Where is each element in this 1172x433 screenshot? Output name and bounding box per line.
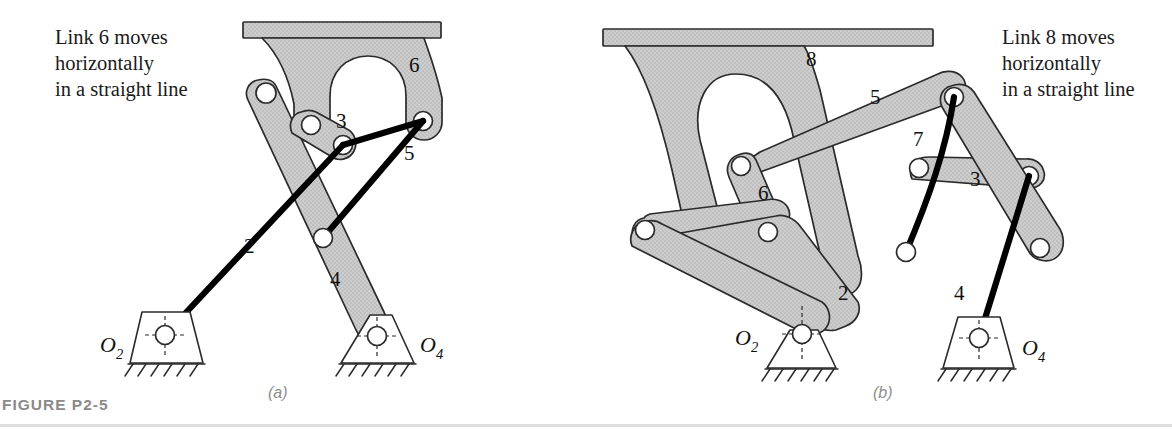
panel-b-link-label-2: 2 [838, 281, 849, 305]
panel-b-note-line-1: Link 8 moves [1002, 26, 1115, 48]
panel-a-o2-label: O [100, 332, 116, 357]
panel-b-o2-pin [793, 325, 812, 344]
panel-b-o4-label: O [1022, 335, 1038, 360]
panel-b-joint-rocker-bottom [1031, 239, 1050, 258]
panel-b-link-label-3: 3 [970, 167, 981, 191]
panel-b-link-label-5: 5 [870, 85, 881, 109]
panel-b-joint-6-5 [732, 157, 751, 176]
panel-b-link-label-8: 8 [806, 47, 817, 71]
figure-p2-5: Link 6 moves horizontally in a straight … [0, 0, 1172, 433]
panel-b-ground-pivot-o4: O 4 [938, 317, 1045, 381]
panel-a-ground-pivot-o4: O 4 [336, 315, 443, 376]
panel-a-link-label-6: 6 [409, 53, 420, 77]
panel-a-o4-pin [368, 327, 387, 346]
panel-b-joint-2-6 [759, 223, 778, 242]
panel-a-note-line-1: Link 6 moves [55, 26, 168, 48]
panel-a-link-label-5: 5 [404, 141, 415, 165]
panel-b-label: (b) [873, 384, 893, 401]
caption-divider [0, 424, 1172, 427]
panel-a-joint-5-4 [314, 229, 333, 248]
panel-b-o2-label: O [735, 325, 751, 350]
panel-b-joint-2-left [636, 221, 655, 240]
panel-a-top-rail [243, 22, 441, 38]
panel-a-ground-pivot-o2: O 2 [100, 312, 205, 376]
panel-b-joint-3-left [910, 159, 929, 178]
panel-b-joint-7-lower [897, 243, 916, 262]
panel-b-link-label-7: 7 [913, 127, 924, 151]
panel-a-note-line-3: in a straight line [55, 78, 188, 101]
panel-a-o2-hatching [125, 364, 198, 376]
panel-a-o4-label-sub: 4 [436, 346, 443, 362]
figure-caption: FIGURE P2-5 [2, 396, 109, 414]
panel-a-o2-pin [156, 326, 175, 345]
panel-b-o2-hatching [762, 369, 834, 381]
panel-a-link-label-3: 3 [336, 109, 347, 133]
panel-a: Link 6 moves horizontally in a straight … [55, 22, 443, 401]
panel-b-o4-hatching [938, 369, 1011, 381]
panel-b: Link 8 moves horizontally in a straight … [603, 26, 1135, 401]
panel-b-note-line-2: horizontally [1002, 52, 1102, 75]
panel-a-o2-label-sub: 2 [116, 346, 123, 362]
panel-b-o4-label-sub: 4 [1038, 349, 1045, 365]
panel-b-note-line-3: in a straight line [1002, 78, 1135, 101]
panel-b-link-label-4: 4 [954, 281, 965, 305]
panel-a-link-label-2: 2 [244, 234, 255, 258]
panel-b-o4-pin [970, 329, 989, 348]
panel-a-joint-4-3-upper [256, 83, 276, 103]
mechanism-diagram-svg: Link 6 moves horizontally in a straight … [0, 0, 1172, 433]
panel-a-o4-label: O [420, 332, 436, 357]
panel-b-o2-label-sub: 2 [751, 339, 758, 355]
panel-a-o4-hatching [336, 364, 409, 376]
panel-a-label: (a) [268, 384, 288, 401]
panel-a-link-label-4: 4 [330, 267, 341, 291]
panel-a-joint-3-6 [302, 116, 321, 135]
panel-b-top-rail [603, 29, 933, 46]
panel-a-note-line-2: horizontally [55, 52, 155, 75]
